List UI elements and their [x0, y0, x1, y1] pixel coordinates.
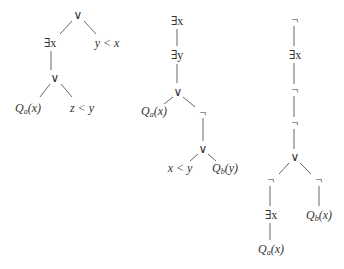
not-node: ¬	[316, 174, 323, 186]
qa-x-node: Qa(x)	[141, 105, 167, 117]
qa-x-node: Qa(x)	[15, 102, 41, 114]
exists-x-node: ∃x	[265, 209, 278, 221]
not-node: ¬	[200, 107, 207, 119]
qb-x-node: Qb(x)	[306, 209, 332, 221]
exists-x-node: ∃x	[289, 49, 302, 61]
not-node: ¬	[292, 14, 299, 26]
exists-x-node: ∃x	[171, 15, 184, 27]
or-node: ∨	[174, 86, 183, 98]
qb-y-node: Qb(y)	[212, 162, 238, 174]
exists-y-node: ∃y	[171, 49, 184, 61]
or-node: ∨	[199, 143, 208, 155]
or-node: ∨	[51, 72, 60, 84]
or-node: ∨	[74, 9, 83, 21]
x-less-y-node: x < y	[168, 162, 193, 174]
not-node: ¬	[268, 174, 275, 186]
or-node: ∨	[291, 151, 300, 163]
z-less-y-node: z < y	[70, 102, 94, 114]
y-less-x-node: y < x	[95, 37, 120, 49]
not-node: ¬	[292, 117, 299, 129]
qa-x-node: Qa(x)	[258, 243, 284, 255]
not-node: ¬	[292, 84, 299, 96]
exists-x-node: ∃x	[44, 37, 57, 49]
